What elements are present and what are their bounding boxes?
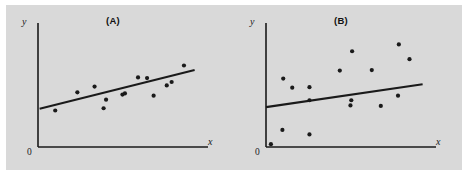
- panel-b-data-point: [370, 68, 374, 72]
- panel-a-data-point: [152, 94, 156, 98]
- panel-b-data-point: [307, 85, 311, 89]
- panel-b-data-point: [307, 132, 311, 136]
- panel-b-data-point: [269, 142, 273, 146]
- panel-b-data-point: [338, 69, 342, 73]
- panel-a-data-point: [92, 84, 96, 88]
- panel-a-data-point: [145, 76, 149, 80]
- panel-b-data-point: [281, 77, 285, 81]
- panel-b-y-axis-label: y: [250, 16, 254, 27]
- panel-b-data-point: [290, 86, 294, 90]
- panel-b-data-point: [396, 94, 400, 98]
- scatter-plot-a: (A) y x 0: [6, 5, 234, 170]
- figure-panel: (A) y x 0 (B) y x 0: [6, 5, 462, 170]
- panel-a-origin-label: 0: [27, 147, 32, 157]
- panel-a-regression-line: [40, 70, 195, 109]
- panel-a-data-point: [104, 98, 108, 102]
- panel-a-x-axis-label: x: [208, 136, 212, 147]
- panel-b-data-point: [407, 57, 411, 61]
- panel-b-plot-area: [234, 5, 462, 170]
- panel-a-y-axis-label: y: [22, 16, 26, 27]
- panel-a-data-point: [182, 63, 186, 67]
- scatter-plot-b: (B) y x 0: [234, 5, 462, 170]
- panel-b-data-point: [379, 104, 383, 108]
- panel-b-data-point: [349, 98, 353, 102]
- panel-a-data-point: [120, 92, 124, 96]
- panel-a-data-point: [102, 106, 106, 110]
- panel-a-data-point: [75, 90, 79, 94]
- panel-b-data-point: [307, 98, 311, 102]
- panel-b-data-point: [397, 42, 401, 46]
- panel-a-data-point: [53, 108, 57, 112]
- panel-b-data-point: [348, 103, 352, 107]
- panel-b-data-point: [280, 128, 284, 132]
- panel-a-data-point: [165, 83, 169, 87]
- panel-a-data-point: [136, 75, 140, 79]
- panel-a-data-point: [170, 80, 174, 84]
- panel-a-plot-area: [6, 5, 234, 170]
- panel-b-data-point: [350, 49, 354, 53]
- panel-b-origin-label: 0: [255, 147, 260, 157]
- panel-b-x-axis-label: x: [436, 136, 440, 147]
